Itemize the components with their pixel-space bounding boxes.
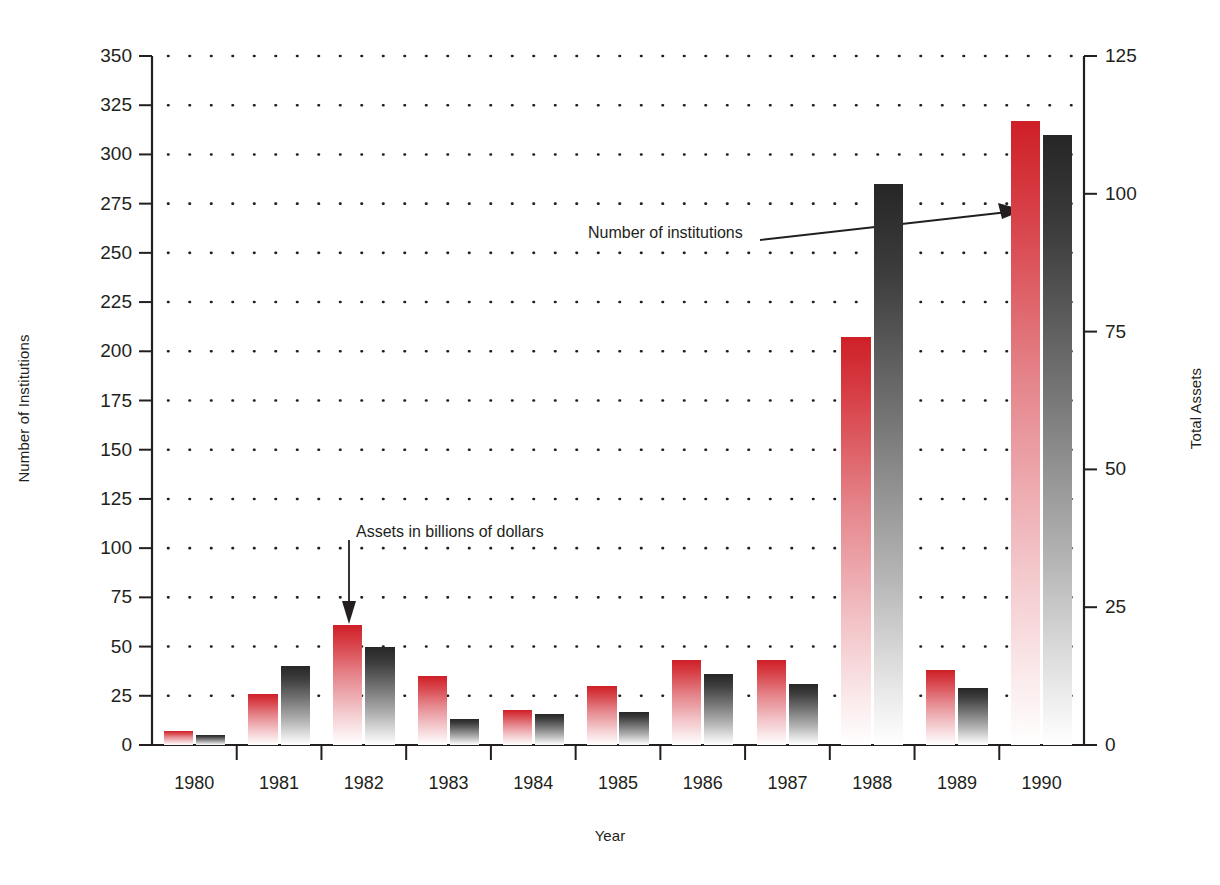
bar-assets (926, 670, 955, 745)
bar-institutions (535, 714, 564, 745)
y-tick-label: 250 (80, 243, 132, 262)
bars-layer (152, 56, 1084, 745)
right-tick-marks (1084, 56, 1097, 745)
y-tick-label: 325 (80, 95, 132, 114)
bar-institutions (704, 674, 733, 745)
bar-assets (672, 660, 701, 745)
x-tick-label: 1986 (663, 773, 743, 794)
chart-figure: Number of Institutions Total Assets Year… (0, 0, 1220, 885)
y-tick-label: 350 (80, 46, 132, 65)
y-tick-label: 100 (80, 538, 132, 557)
x-tick-label: 1987 (747, 773, 827, 794)
bar-assets (503, 710, 532, 745)
left-tick-marks (139, 56, 152, 745)
x-tick-label: 1984 (493, 773, 573, 794)
y2-tick-label: 25 (1105, 597, 1165, 616)
y-tick-label: 200 (80, 341, 132, 360)
y-tick-label: 0 (80, 735, 132, 754)
bar-institutions (789, 684, 818, 745)
bar-assets (587, 686, 616, 745)
bar-institutions (196, 735, 225, 745)
x-tick-label: 1982 (324, 773, 404, 794)
bar-institutions (619, 712, 648, 745)
bar-institutions (281, 666, 310, 745)
y2-tick-label: 75 (1105, 322, 1165, 341)
x-tick-label: 1985 (578, 773, 658, 794)
y2-tick-label: 0 (1105, 735, 1165, 754)
y-tick-label: 50 (80, 637, 132, 656)
x-tick-label: 1983 (409, 773, 489, 794)
y-tick-label: 150 (80, 440, 132, 459)
annotation-institutions: Number of institutions (588, 224, 743, 242)
bar-institutions (1043, 135, 1072, 745)
bar-institutions (874, 184, 903, 745)
bar-institutions (958, 688, 987, 745)
bar-assets (1011, 121, 1040, 745)
x-tick-label: 1989 (917, 773, 997, 794)
x-tick-label: 1990 (1002, 773, 1082, 794)
y-tick-label: 225 (80, 292, 132, 311)
x-tick-label: 1988 (832, 773, 912, 794)
y-axis-left-title: Number of Institutions (15, 309, 32, 509)
y-tick-label: 300 (80, 144, 132, 163)
bar-assets (418, 676, 447, 745)
x-tick-label: 1980 (154, 773, 234, 794)
bar-assets (164, 731, 193, 745)
y2-tick-label: 125 (1105, 46, 1165, 65)
annotation-assets: Assets in billions of dollars (356, 523, 544, 541)
y-tick-label: 275 (80, 194, 132, 213)
bar-assets (841, 337, 870, 745)
x-tick-marks (237, 745, 1000, 760)
y-tick-label: 25 (80, 686, 132, 705)
y-tick-label: 175 (80, 391, 132, 410)
x-tick-label: 1981 (239, 773, 319, 794)
bar-institutions (365, 647, 394, 745)
y2-tick-label: 100 (1105, 184, 1165, 203)
y-tick-label: 125 (80, 489, 132, 508)
bar-assets (757, 660, 786, 745)
bar-assets (248, 694, 277, 745)
y-tick-label: 75 (80, 587, 132, 606)
y2-tick-label: 50 (1105, 459, 1165, 478)
x-axis-title: Year (0, 827, 1220, 844)
bar-institutions (450, 719, 479, 745)
y-axis-right-title: Total Assets (1187, 309, 1204, 509)
bar-assets (333, 625, 362, 745)
